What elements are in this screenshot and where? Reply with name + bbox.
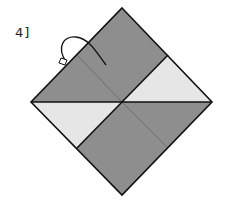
arrow-head-icon [59, 58, 67, 65]
origami-diagram [0, 0, 232, 205]
